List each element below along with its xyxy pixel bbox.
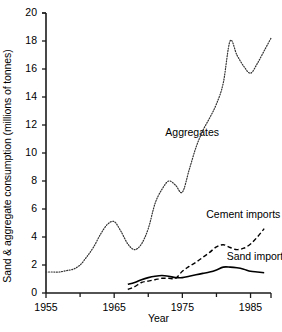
y-tick-label: 20 bbox=[15, 6, 37, 18]
y-tick-label: 2 bbox=[15, 258, 37, 270]
y-tick-label: 16 bbox=[15, 62, 37, 74]
y-tick-label: 4 bbox=[15, 230, 37, 242]
series-label-sand-imports: Sand imports bbox=[227, 250, 282, 262]
series-line-aggregates bbox=[46, 38, 271, 272]
series-label-aggregates: Aggregates bbox=[165, 126, 219, 138]
y-tick-label: 0 bbox=[15, 286, 37, 298]
y-tick-label: 14 bbox=[15, 90, 37, 102]
y-tick-label: 18 bbox=[15, 34, 37, 46]
y-tick-label: 10 bbox=[15, 146, 37, 158]
x-tick-label: 1985 bbox=[231, 301, 271, 313]
x-tick-label: 1965 bbox=[94, 301, 134, 313]
y-tick-label: 12 bbox=[15, 118, 37, 130]
plot-area bbox=[0, 0, 282, 332]
x-tick-label: 1975 bbox=[162, 301, 202, 313]
series-label-cement-imports: Cement imports bbox=[206, 208, 280, 220]
chart-figure: Sand & aggregate consumption (millions o… bbox=[0, 0, 282, 332]
x-tick-label: 1955 bbox=[26, 301, 66, 313]
y-tick-label: 8 bbox=[15, 174, 37, 186]
y-tick-label: 6 bbox=[15, 202, 37, 214]
